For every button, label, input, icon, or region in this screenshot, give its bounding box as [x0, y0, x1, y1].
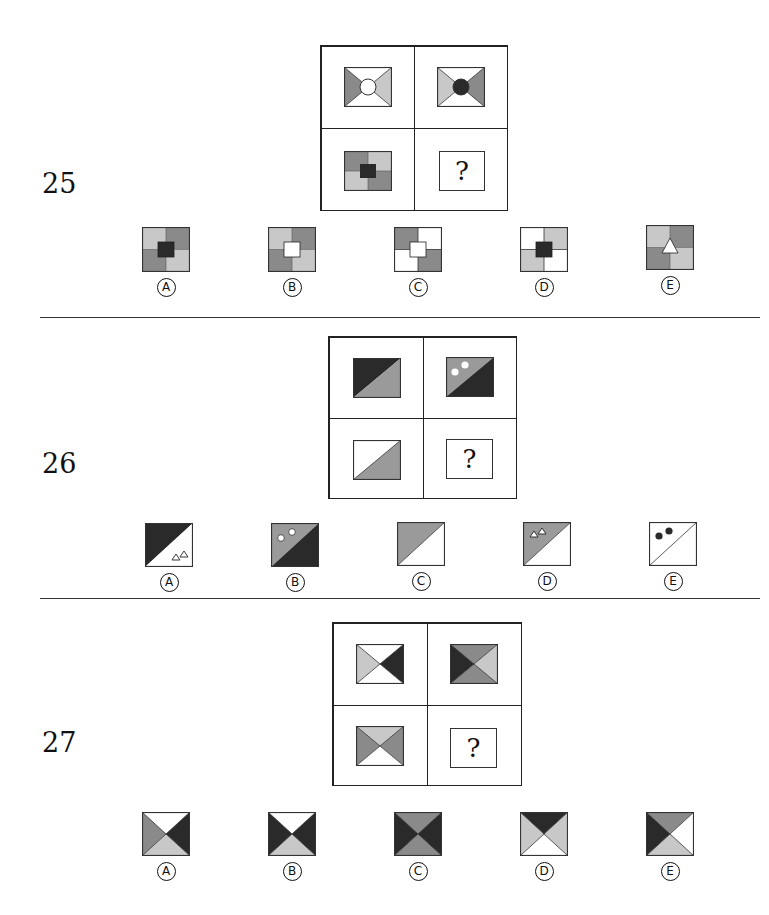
quadrant-figure-black-square: [344, 151, 392, 191]
option-figure: [520, 227, 568, 272]
option-label: C: [412, 572, 431, 591]
grid-cell-missing: ?: [423, 418, 517, 499]
missing-figure-box: ?: [446, 439, 493, 479]
option-label: A: [157, 862, 176, 881]
option-figure: [397, 522, 445, 566]
option-figure: [142, 812, 190, 856]
option-figure: [394, 812, 442, 856]
option-figure: [145, 523, 193, 567]
option-label: B: [283, 278, 302, 297]
option-a[interactable]: A: [141, 523, 197, 592]
option-label: E: [661, 276, 680, 295]
option-figure: [268, 227, 316, 272]
option-label: E: [661, 862, 680, 881]
option-figure: [394, 227, 442, 272]
missing-figure-box: ?: [439, 151, 485, 191]
option-figure: [646, 812, 694, 856]
grid-cell: [333, 705, 428, 786]
question-number: 26: [42, 448, 76, 479]
option-a[interactable]: A: [138, 812, 194, 881]
grid-cell: [333, 623, 428, 706]
missing-figure-box: ?: [450, 728, 497, 768]
option-figure: [646, 225, 694, 270]
option-c[interactable]: C: [390, 227, 446, 297]
puzzle-grid: ?: [320, 45, 508, 211]
puzzle-grid: ?: [332, 622, 522, 786]
option-d[interactable]: D: [516, 227, 572, 297]
grid-cell: [423, 337, 517, 419]
grid-cell: [321, 128, 415, 211]
option-a[interactable]: A: [138, 227, 194, 297]
hourglass-figure-1: [356, 644, 404, 684]
grid-cell-missing: ?: [427, 705, 522, 786]
hourglass-figure-2: [450, 644, 498, 684]
option-d[interactable]: D: [516, 812, 572, 881]
grid-cell: [321, 46, 415, 129]
option-label: A: [157, 278, 176, 297]
option-e[interactable]: E: [642, 812, 698, 881]
option-label: D: [538, 572, 557, 591]
option-figure: [649, 522, 697, 566]
option-label: E: [664, 572, 683, 591]
option-b[interactable]: B: [267, 523, 323, 592]
grid-cell: [329, 418, 424, 499]
option-b[interactable]: B: [264, 227, 320, 297]
option-b[interactable]: B: [264, 812, 320, 881]
option-label: C: [409, 862, 428, 881]
option-label: B: [286, 573, 305, 592]
grid-cell: [414, 46, 508, 129]
diagonal-figure-gray-dots-black: [446, 357, 494, 397]
option-e[interactable]: E: [642, 225, 698, 295]
envelope-figure-black-circle: [437, 67, 485, 107]
option-c[interactable]: C: [393, 522, 449, 591]
option-e[interactable]: E: [645, 522, 701, 591]
question-number: 27: [42, 727, 76, 758]
option-d[interactable]: D: [519, 522, 575, 591]
option-label: D: [535, 278, 554, 297]
hourglass-figure-3: [356, 726, 404, 766]
question-number: 25: [42, 168, 76, 199]
option-label: B: [283, 862, 302, 881]
grid-cell-missing: ?: [414, 128, 508, 211]
option-figure: [520, 812, 568, 856]
option-label: C: [409, 278, 428, 297]
option-c[interactable]: C: [390, 812, 446, 881]
option-figure: [271, 523, 319, 567]
option-figure: [523, 522, 571, 566]
diagonal-figure-black-gray: [353, 358, 401, 398]
grid-cell: [329, 337, 424, 419]
option-figure: [142, 227, 190, 272]
envelope-figure-white-circle: [344, 67, 392, 107]
section-divider: [40, 598, 760, 599]
puzzle-grid: ?: [328, 336, 517, 499]
section-divider: [40, 317, 760, 318]
option-label: D: [535, 862, 554, 881]
diagonal-figure-white-gray: [353, 440, 401, 480]
option-figure: [268, 812, 316, 856]
option-label: A: [160, 573, 179, 592]
grid-cell: [427, 623, 522, 706]
